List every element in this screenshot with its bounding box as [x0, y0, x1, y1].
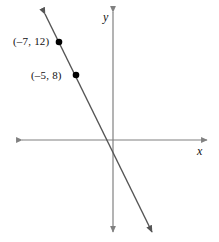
data-point-marker [56, 39, 63, 46]
y-axis-label: y [103, 10, 108, 25]
x-axis-label: x [197, 144, 202, 159]
data-point-label-2: (–5, 8) [31, 69, 62, 81]
data-point-marker [73, 72, 80, 79]
coordinate-plane-figure: (–7, 12) (–5, 8) y x [0, 0, 219, 242]
data-point-label-1: (–7, 12) [13, 35, 49, 47]
plotted-line [45, 14, 152, 232]
